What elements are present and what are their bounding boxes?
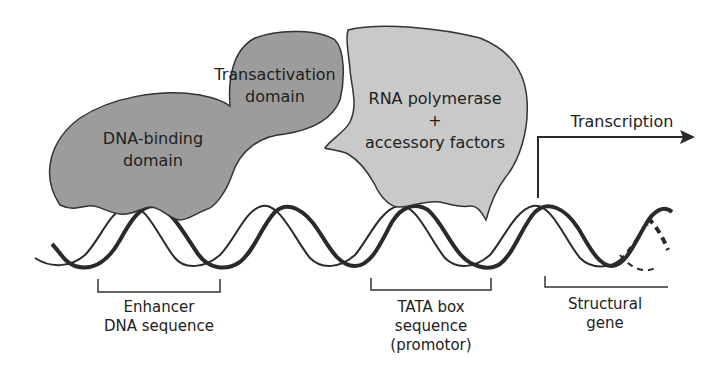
transcription-label: Transcription bbox=[552, 112, 692, 131]
dna-binding-domain-label: DNA-binding domain bbox=[88, 128, 218, 172]
label-line: gene bbox=[545, 314, 665, 333]
label-line: sequence bbox=[371, 317, 491, 336]
dna-strand-thin-dashed bbox=[620, 225, 655, 270]
label-line: domain bbox=[88, 150, 218, 172]
label-line: Structural bbox=[545, 295, 665, 314]
label-line: DNA sequence bbox=[89, 317, 229, 336]
label-line: + bbox=[355, 110, 515, 132]
activator-protein-shape bbox=[50, 31, 344, 220]
label-line: domain bbox=[205, 86, 345, 108]
enhancer-bracket bbox=[98, 279, 220, 292]
tata-box-label: TATA box sequence (promotor) bbox=[371, 298, 491, 355]
enhancer-label: Enhancer DNA sequence bbox=[89, 298, 229, 336]
label-line: DNA-binding bbox=[88, 128, 218, 150]
structural-gene-bracket bbox=[545, 276, 668, 287]
structural-gene-label: Structural gene bbox=[545, 295, 665, 333]
label-line: Transactivation bbox=[205, 64, 345, 86]
transactivation-domain-label: Transactivation domain bbox=[205, 64, 345, 108]
label-line: RNA polymerase bbox=[355, 88, 515, 110]
label-line: (promotor) bbox=[371, 336, 491, 355]
label-line: accessory factors bbox=[355, 132, 515, 154]
tata-bracket bbox=[371, 278, 491, 290]
label-line: Enhancer bbox=[89, 298, 229, 317]
transcription-arrow bbox=[538, 137, 684, 198]
dna-strand-thick-dashed bbox=[648, 218, 668, 250]
rna-polymerase-label: RNA polymerase + accessory factors bbox=[355, 88, 515, 154]
label-line: TATA box bbox=[371, 298, 491, 317]
